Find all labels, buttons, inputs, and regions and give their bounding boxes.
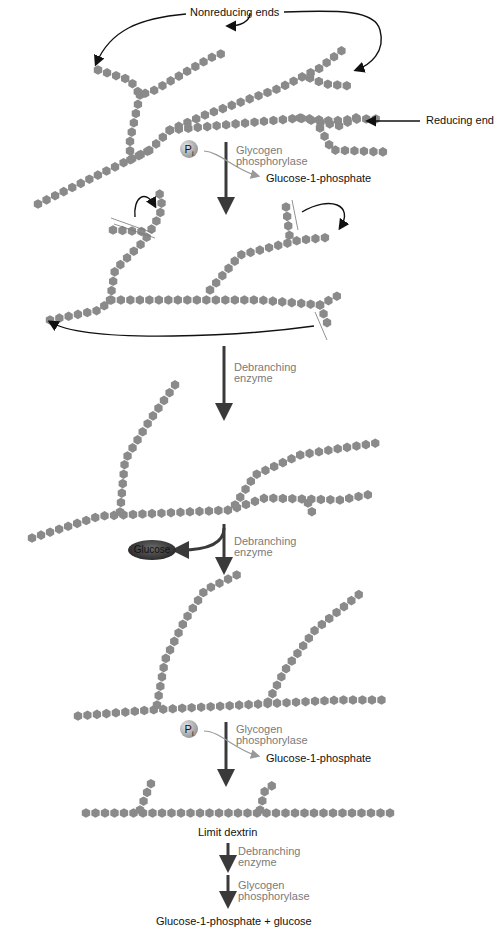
glucose-unit — [339, 695, 347, 705]
glucose-unit — [82, 808, 90, 818]
glucose-unit — [330, 696, 338, 706]
glucose-unit — [215, 578, 223, 588]
glucose-unit — [311, 234, 319, 244]
enzyme-label-phosphorylase-5b: phosphorylase — [238, 891, 310, 902]
glucose-unit — [254, 699, 262, 709]
glucose-unit — [253, 469, 261, 479]
glucose-unit — [85, 174, 93, 184]
glucose-unit — [318, 620, 326, 630]
glucose-unit — [174, 295, 182, 305]
glucose-unit — [273, 698, 281, 708]
glucose-unit — [320, 132, 328, 142]
glucose-unit — [265, 243, 273, 253]
glucose-unit — [282, 202, 290, 212]
glucose-unit — [283, 238, 291, 248]
glucose-unit — [103, 68, 111, 78]
glucose-unit — [288, 494, 296, 504]
diagram-graphics — [0, 0, 496, 946]
glucose-unit — [139, 796, 147, 806]
glucose-unit — [119, 479, 127, 489]
glucose-unit — [233, 570, 241, 580]
glucose-unit — [302, 235, 310, 245]
glucose-unit — [123, 253, 131, 263]
glucose-unit — [205, 506, 213, 516]
pi-subscript: i — [192, 150, 194, 157]
glucose-unit — [199, 57, 207, 67]
glucose-unit — [212, 278, 220, 288]
glucose-unit — [236, 492, 244, 502]
glucose-unit — [282, 698, 290, 708]
glucose-unit — [258, 796, 266, 806]
glucose-unit — [311, 696, 319, 706]
glucose-unit — [240, 295, 248, 305]
glucose-unit — [83, 710, 91, 720]
glucose-unit — [152, 139, 160, 149]
glucose-unit — [139, 427, 147, 437]
glucose-unit — [158, 808, 166, 818]
glucose-unit — [131, 707, 139, 717]
glucose-unit — [165, 388, 173, 398]
glucose-unit — [91, 513, 99, 523]
glucose-unit — [121, 74, 129, 84]
glucose-unit — [156, 208, 164, 218]
glucose-unit — [152, 216, 160, 226]
glucose-unit — [358, 695, 366, 705]
glucose-unit — [281, 808, 289, 818]
glucose-unit — [197, 702, 205, 712]
glucose-unit — [196, 808, 204, 818]
glucose-unit — [305, 449, 313, 459]
glucose-unit — [343, 443, 351, 453]
glucose-unit — [189, 604, 197, 614]
glucose-unit — [355, 590, 363, 600]
glucose-unit — [156, 682, 164, 692]
glucose-unit — [321, 233, 329, 243]
glucose-unit — [132, 109, 140, 119]
glucose-unit — [167, 808, 175, 818]
glucose-unit — [186, 808, 194, 818]
glucose-unit — [297, 299, 305, 309]
glucose-unit — [202, 295, 210, 305]
glucose-unit — [242, 500, 250, 510]
glucose-unit — [334, 444, 342, 454]
glucose-unit — [166, 645, 174, 655]
glucose-unit — [143, 788, 151, 798]
glucose-unit — [130, 246, 138, 256]
glucose-unit — [316, 300, 324, 310]
enzyme-label-phosphorylase-4b: phosphorylase — [236, 735, 308, 746]
glucose-unit — [111, 267, 119, 277]
glucose-unit — [221, 295, 229, 305]
glucose-chains — [28, 46, 394, 818]
glucose-unit — [243, 808, 251, 818]
glucose-unit — [277, 672, 285, 682]
glucose-unit — [319, 309, 327, 319]
glucose-unit — [179, 620, 187, 630]
glucose-unit — [158, 672, 166, 682]
glucose-unit — [326, 495, 334, 505]
glucose-unit — [332, 608, 340, 618]
glucose-unit — [117, 498, 125, 508]
glucose-unit — [292, 697, 300, 707]
glucose-unit — [320, 696, 328, 706]
glucose-unit — [317, 495, 325, 505]
glucose-unit — [274, 241, 282, 251]
glucose-unit — [157, 198, 165, 208]
glucose-unit — [92, 306, 100, 316]
glucose-unit — [231, 295, 239, 305]
phosphate-icon: Pi — [180, 140, 198, 158]
glucose-unit — [130, 118, 138, 128]
glucose-unit — [330, 52, 338, 62]
glucose-unit — [55, 524, 63, 534]
glucose-unit — [74, 711, 82, 721]
glucose-unit — [94, 170, 102, 180]
glucose-unit — [282, 664, 290, 674]
glucose-unit — [293, 649, 301, 659]
glucose-unit — [129, 510, 137, 520]
glucose-unit — [207, 702, 215, 712]
glucose-unit — [169, 704, 177, 714]
glucose-unit — [109, 225, 117, 235]
glucose-unit — [177, 808, 185, 818]
glucose-unit — [155, 295, 163, 305]
glucose-unit — [144, 419, 152, 429]
glucose-unit — [68, 183, 76, 193]
glucose-unit — [34, 199, 42, 209]
